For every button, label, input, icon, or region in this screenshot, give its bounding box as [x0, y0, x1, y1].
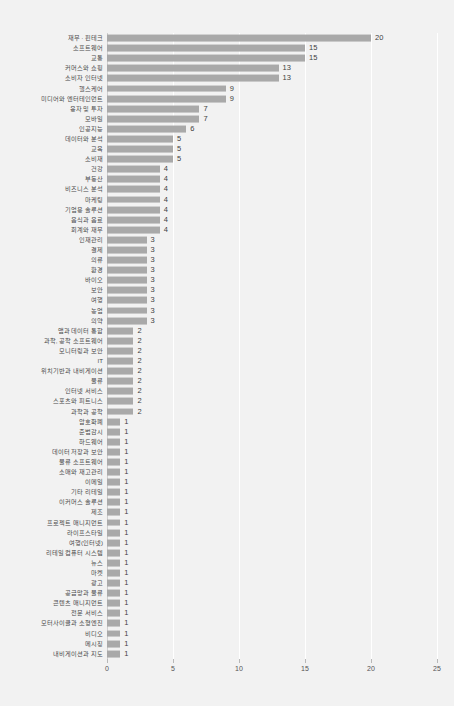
- category-label: 소매와 재고관리: [59, 469, 103, 475]
- category-label: 과학, 공학 소프트웨어: [44, 338, 103, 344]
- bar-value-label: 5: [177, 135, 181, 143]
- category-label: 데이터와 분석: [65, 136, 103, 142]
- category-label: 모니터링과 보안: [59, 348, 103, 354]
- bar-row: 내비게이션과 지도1: [107, 649, 437, 659]
- bar-row: 의약3: [107, 316, 437, 326]
- bar: [107, 115, 199, 122]
- category-label: 암호화폐: [79, 419, 103, 425]
- category-label: 환경: [91, 267, 103, 273]
- bar: [107, 499, 120, 506]
- bar: [107, 610, 120, 617]
- bar-value-label: 3: [151, 236, 155, 244]
- category-label: 융자 및 투자: [70, 106, 103, 112]
- bar: [107, 136, 173, 143]
- bar-value-label: 1: [124, 448, 128, 456]
- x-axis: 0510152025: [107, 659, 437, 683]
- bar: [107, 55, 305, 62]
- bar-value-label: 2: [137, 337, 141, 345]
- bar-value-label: 5: [177, 145, 181, 153]
- bar-value-label: 6: [190, 125, 194, 133]
- bar: [107, 337, 133, 344]
- bar: [107, 438, 120, 445]
- category-label: 준법감시: [79, 429, 103, 435]
- bar: [107, 650, 120, 657]
- bar-row: 모터사이클과 소형엔진1: [107, 618, 437, 628]
- x-tick-label: 25: [433, 665, 441, 672]
- category-label: 위치기반과 내비게이션: [41, 368, 103, 374]
- x-tick: [173, 659, 174, 663]
- bar-value-label: 3: [151, 297, 155, 305]
- bar-value-label: 3: [151, 256, 155, 264]
- plot-area: 재무 · 핀테크20소프트웨어15교통15커머스와 쇼핑13소비자 인터넷13헬…: [107, 33, 437, 659]
- bar-row: 뉴스1: [107, 558, 437, 568]
- bar-value-label: 2: [137, 327, 141, 335]
- category-label: 의류: [91, 257, 103, 263]
- category-label: 건강: [91, 166, 103, 172]
- category-label: 기업용 솔루션: [65, 207, 103, 213]
- bar-row: 여행3: [107, 295, 437, 305]
- bar-row: 마케팅4: [107, 195, 437, 205]
- bar-row: 이커머스 솔루션1: [107, 497, 437, 507]
- bar-value-label: 3: [151, 287, 155, 295]
- bar-row: 하드웨어1: [107, 437, 437, 447]
- category-label: 이커머스 솔루션: [59, 499, 103, 505]
- category-label: 하드웨어: [79, 439, 103, 445]
- bar: [107, 125, 186, 132]
- category-label: 의약: [91, 318, 103, 324]
- bar-value-label: 1: [124, 650, 128, 658]
- bar-row: 비디오1: [107, 629, 437, 639]
- bar-value-label: 2: [137, 347, 141, 355]
- bar-value-label: 13: [283, 75, 291, 83]
- category-label: 소프트웨어: [73, 45, 103, 51]
- x-tick: [305, 659, 306, 663]
- category-label: 모바일: [85, 116, 103, 122]
- bar: [107, 559, 120, 566]
- category-label: 프로젝트 매니지먼트: [47, 519, 103, 525]
- bar-row: 음식과 음료4: [107, 215, 437, 225]
- bar-row: 보안3: [107, 285, 437, 295]
- category-label: 리테일 컴퓨터 시스템: [46, 550, 103, 556]
- category-label: 모터사이클과 소형엔진: [41, 620, 103, 626]
- bar-value-label: 1: [124, 559, 128, 567]
- bar-row: 콘텐츠 매니지먼트1: [107, 598, 437, 608]
- x-tick-label: 10: [235, 665, 243, 672]
- category-label: 비디오: [85, 630, 103, 636]
- bar-row: 프로젝트 매니지먼트1: [107, 518, 437, 528]
- category-label: 인터넷 서비스: [65, 388, 103, 394]
- x-tick: [437, 659, 438, 663]
- bar-row: 커머스와 쇼핑13: [107, 63, 437, 73]
- bar-row: 메시징1: [107, 639, 437, 649]
- bar: [107, 75, 279, 82]
- bar-row: 모니터링과 보안2: [107, 346, 437, 356]
- bar-value-label: 7: [203, 105, 207, 113]
- bar-value-label: 4: [164, 196, 168, 204]
- bar-value-label: 9: [230, 95, 234, 103]
- bar: [107, 630, 120, 637]
- bar: [107, 297, 147, 304]
- category-label: 앱과 데이터 통합: [58, 328, 103, 334]
- bar: [107, 398, 133, 405]
- bar-row: 여행(인터넷)1: [107, 538, 437, 548]
- bar-value-label: 2: [137, 377, 141, 385]
- bar-row: 마켓1: [107, 568, 437, 578]
- category-label: 이메일: [85, 479, 103, 485]
- bar-row: 비즈니스 분석4: [107, 184, 437, 194]
- bar-row: 데이터와 분석5: [107, 134, 437, 144]
- bar-row: 준법감시1: [107, 427, 437, 437]
- bar: [107, 348, 133, 355]
- bar: [107, 459, 120, 466]
- bar-value-label: 1: [124, 519, 128, 527]
- category-label: 뉴스: [91, 560, 103, 566]
- bar: [107, 267, 147, 274]
- bar-row: 재무 · 핀테크20: [107, 33, 437, 43]
- bar: [107, 408, 133, 415]
- bar: [107, 539, 120, 546]
- bar: [107, 226, 160, 233]
- bar-row: 바이오3: [107, 275, 437, 285]
- bar: [107, 206, 160, 213]
- bar-row: 소프트웨어15: [107, 43, 437, 53]
- bar-value-label: 3: [151, 246, 155, 254]
- bar-row: 전문 서비스1: [107, 608, 437, 618]
- bar-value-label: 4: [164, 176, 168, 184]
- bar-value-label: 1: [124, 549, 128, 557]
